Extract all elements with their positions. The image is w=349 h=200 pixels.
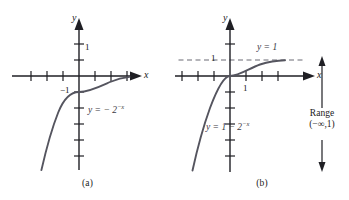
equation-relation-a: = xyxy=(95,105,101,115)
equation-label-b: y = 1 − 2−x xyxy=(206,122,249,132)
x-axis-label-b: x xyxy=(317,69,321,80)
panel-b-plot xyxy=(175,0,349,200)
equation-exponent-a: −x xyxy=(117,103,124,110)
equation-lhs-a: y xyxy=(88,105,92,115)
curve-b xyxy=(193,60,286,170)
figure-container: 1 −1 y x y = − 2−x (a) xyxy=(0,0,349,200)
x-tick-label-positive-b: 1 xyxy=(243,83,248,93)
panel-a: 1 −1 y x y = − 2−x (a) xyxy=(0,0,175,200)
x-axis-arrowhead xyxy=(303,72,315,81)
range-arrow-up-head xyxy=(319,56,326,66)
equation-base-b: 1 − 2 xyxy=(221,122,242,132)
equation-exponent-b: −x xyxy=(242,120,249,127)
panel-a-plot xyxy=(0,0,175,200)
x-axis-arrowhead xyxy=(130,72,142,81)
asymptote-label-b: y = 1 xyxy=(257,42,277,52)
y-axis-label-a: y xyxy=(72,12,76,23)
panel-b: 1 1 y x y = 1 y = 1 − 2−x Range (−∞,1) (… xyxy=(175,0,349,200)
equation-relation-b: = xyxy=(213,122,219,132)
panel-caption-a: (a) xyxy=(0,178,175,188)
y-tick-label-positive-b: 1 xyxy=(211,53,216,63)
range-annotation: Range (−∞,1) xyxy=(288,108,349,130)
equation-label-a: y = − 2−x xyxy=(88,105,124,115)
equation-base-a: − 2 xyxy=(103,105,117,115)
curve-a xyxy=(41,77,129,170)
y-axis-label-b: y xyxy=(223,12,227,23)
y-tick-label-positive-a: 1 xyxy=(85,42,90,52)
range-interval: (−∞,1) xyxy=(288,119,349,130)
equation-lhs-b: y xyxy=(206,122,210,132)
range-arrow-down-head xyxy=(319,162,326,172)
y-tick-label-negative-a: −1 xyxy=(60,85,70,95)
x-axis-label-a: x xyxy=(144,69,148,80)
range-title: Range xyxy=(288,108,349,119)
panel-caption-b: (b) xyxy=(175,178,349,188)
